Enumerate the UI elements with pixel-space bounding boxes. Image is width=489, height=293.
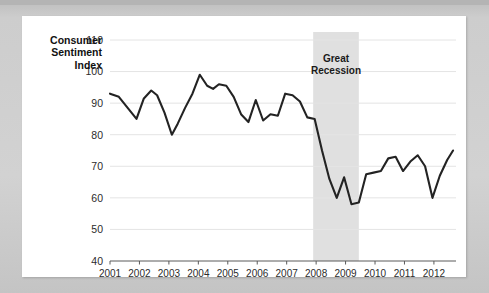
y-axis-title-line-0: Consumer [50, 34, 102, 46]
x-tick-label-2010: 2010 [364, 268, 387, 277]
x-tick-label-2007: 2007 [276, 268, 299, 277]
x-tick-label-2002: 2002 [128, 268, 151, 277]
y-axis-title-line-1: Sentiment [51, 46, 102, 58]
x-tick-label-2006: 2006 [246, 268, 269, 277]
y-axis-title-line-2: Index [75, 59, 103, 71]
x-tick-label-2004: 2004 [187, 268, 210, 277]
x-tick-label-2003: 2003 [158, 268, 181, 277]
x-tick-label-2009: 2009 [334, 268, 357, 277]
annotation-label-line-0: Great [323, 53, 350, 64]
x-tick-label-2008: 2008 [305, 268, 328, 277]
y-tick-label-80: 80 [91, 129, 103, 141]
outer-frame: 4050607080901001102001200220032004200520… [0, 0, 489, 293]
y-tick-label-90: 90 [91, 97, 103, 109]
y-tick-label-50: 50 [91, 223, 103, 235]
x-tick-label-2011: 2011 [394, 268, 416, 277]
frame-top-edge [0, 0, 489, 5]
y-tick-label-40: 40 [91, 255, 103, 267]
data-series-0 [110, 75, 453, 204]
y-tick-label-70: 70 [91, 160, 103, 172]
x-tick-label-2012: 2012 [423, 268, 446, 277]
y-tick-label-60: 60 [91, 192, 103, 204]
annotation-label-line-1: Recession [311, 65, 361, 76]
chart-card: 4050607080901001102001200220032004200520… [22, 16, 466, 277]
x-tick-label-2001: 2001 [99, 268, 122, 277]
x-tick-label-2005: 2005 [217, 268, 240, 277]
chart-area: 4050607080901001102001200220032004200520… [22, 16, 466, 277]
consumer-sentiment-line-chart: 4050607080901001102001200220032004200520… [22, 16, 466, 277]
